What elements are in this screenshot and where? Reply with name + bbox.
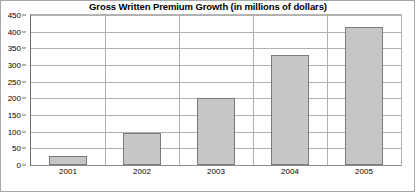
x-axis-tick-label: 2005: [355, 167, 373, 176]
y-axis-tick-label: 350: [8, 44, 21, 53]
y-axis-tick-label: 450: [8, 11, 21, 20]
y-axis-tick-mark: [22, 131, 26, 132]
y-axis-tick-mark: [22, 98, 26, 99]
bar-2001: [49, 156, 87, 165]
y-axis-tick-mark: [22, 48, 26, 49]
y-axis-tick-label: 300: [8, 61, 21, 70]
bar-2002: [123, 133, 161, 165]
y-axis-tick-mark: [22, 165, 26, 166]
x-axis-tick-label: 2002: [133, 167, 151, 176]
y-axis-tick-mark: [22, 115, 26, 116]
y-axis-tick-mark: [22, 15, 26, 16]
y-axis-tick-mark: [22, 65, 26, 66]
y-axis-tick-label: 200: [8, 94, 21, 103]
bars-layer: [31, 15, 401, 165]
bar-chart-figure: Gross Written Premium Growth (in million…: [0, 0, 416, 193]
x-axis-tick-label: 2003: [207, 167, 225, 176]
y-axis-tick-label: 50: [12, 144, 21, 153]
y-axis-tick-mark: [22, 148, 26, 149]
bar-2005: [345, 27, 383, 165]
x-axis-tick-label: 2004: [281, 167, 299, 176]
y-axis: 050100150200250300350400450: [0, 14, 26, 166]
x-axis: 20012002200320042005: [31, 167, 401, 181]
bar-2004: [271, 55, 309, 165]
y-axis-tick-mark: [22, 31, 26, 32]
y-axis-tick-label: 100: [8, 127, 21, 136]
y-axis-tick-label: 250: [8, 77, 21, 86]
y-axis-tick-mark: [22, 81, 26, 82]
bar-2003: [197, 98, 235, 165]
y-axis-tick-label: 0: [17, 161, 21, 170]
x-axis-tick-label: 2001: [59, 167, 77, 176]
y-axis-tick-label: 400: [8, 27, 21, 36]
chart-title: Gross Written Premium Growth (in million…: [0, 1, 416, 12]
y-axis-tick-label: 150: [8, 111, 21, 120]
